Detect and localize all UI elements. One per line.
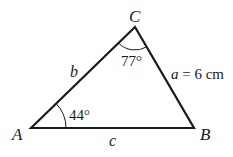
angle-arc-a [56, 104, 66, 128]
angle-label-a: 44° [69, 107, 90, 123]
side-label-a: a = 6 cm [171, 66, 224, 82]
angle-label-c: 77° [121, 53, 142, 69]
angle-arc-c [119, 43, 147, 50]
triangle-abc [31, 27, 194, 128]
vertex-label-b: B [200, 125, 211, 144]
side-label-b: b [70, 63, 78, 80]
triangle-diagram: C A B 77° 44° b c a = 6 cm [0, 0, 233, 157]
vertex-label-a: A [11, 125, 23, 144]
side-a-value: = 6 cm [182, 66, 224, 82]
side-label-c: c [109, 132, 116, 149]
vertex-label-c: C [129, 7, 141, 26]
side-a-name: a [171, 66, 179, 82]
